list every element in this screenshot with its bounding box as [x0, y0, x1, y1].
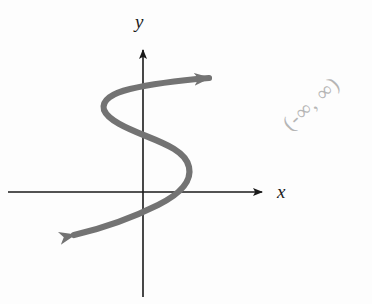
s-shaped-curve	[74, 78, 209, 235]
x-axis-label: x	[277, 182, 285, 201]
y-axis-label: y	[135, 12, 143, 31]
